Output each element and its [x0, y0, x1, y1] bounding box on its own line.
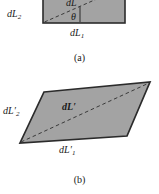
label-theta-a: θ — [71, 12, 76, 22]
panel-b: dL′2 dL′ dL′1 (b) — [0, 70, 159, 194]
caption-b: (b) — [0, 174, 159, 185]
label-dl1-prime-b: dL′1 — [59, 145, 76, 157]
label-dl1-a: dL1 — [70, 28, 84, 40]
panel-a: dL2 dL θ dL1 (a) — [0, 0, 159, 70]
caption-a: (a) — [0, 52, 159, 63]
label-dl2-a: dL2 — [7, 9, 21, 21]
label-dl-prime-diagonal-b: dL′ — [62, 102, 76, 112]
label-dl2-prime-b: dL′2 — [3, 106, 20, 118]
label-dl-diagonal-a: dL — [66, 0, 77, 8]
rectangle-shape — [43, 0, 125, 23]
figure-root: dL2 dL θ dL1 (a) dL′2 dL′ dL′1 (b) — [0, 0, 159, 194]
